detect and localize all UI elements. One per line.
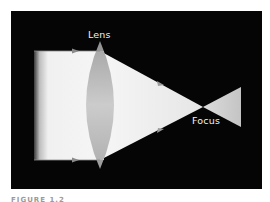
lens-focus-diagram: [0, 0, 270, 202]
figure-caption: FIGURE 1.2: [11, 196, 65, 202]
focus-label: Focus: [192, 115, 220, 126]
lens-label: Lens: [88, 29, 111, 40]
arrow-icon: [157, 128, 164, 133]
converging-beam: [100, 51, 203, 160]
